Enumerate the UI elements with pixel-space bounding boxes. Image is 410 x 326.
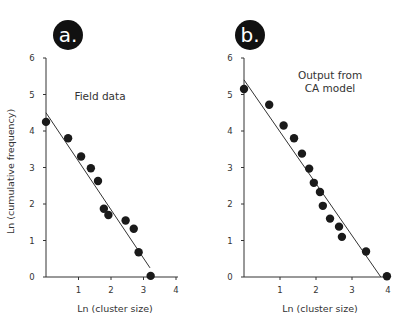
y-tick-label: 6: [29, 53, 34, 63]
panel-badge-label: b.: [240, 23, 259, 47]
y-tick-label: 3: [227, 163, 232, 173]
data-point: [319, 202, 327, 210]
data-point: [338, 233, 346, 241]
data-point: [94, 177, 102, 185]
data-point: [104, 211, 112, 219]
data-point: [77, 152, 85, 160]
y-tick-label: 1: [29, 236, 34, 246]
data-point: [326, 214, 334, 222]
data-point: [42, 118, 50, 126]
data-point: [310, 179, 318, 187]
x-tick-label: 4: [385, 285, 390, 295]
data-point: [130, 225, 138, 233]
panel-title: Output from: [298, 69, 362, 81]
y-tick-label: 5: [227, 90, 232, 100]
y-axis-label: Ln (cumulative frequency): [5, 109, 16, 234]
regression-line: [46, 113, 150, 268]
x-tick-label: 1: [277, 285, 282, 295]
data-point: [146, 272, 154, 280]
panel-title: Field data: [74, 90, 125, 102]
data-point: [64, 134, 72, 142]
data-point: [298, 149, 306, 157]
panel-a: 01234561234Ln (cluster size)Ln (cumulati…: [5, 20, 179, 314]
panel-b: 01234561234Ln (cluster size)Output fromC…: [227, 20, 391, 314]
panel-badge-label: a.: [59, 23, 78, 47]
x-tick-label: 4: [173, 285, 178, 295]
data-point: [316, 188, 324, 196]
y-tick-label: 4: [29, 126, 34, 136]
data-point: [362, 247, 370, 255]
data-point: [121, 216, 129, 224]
data-point: [290, 134, 298, 142]
x-axis-label: Ln (cluster size): [282, 303, 358, 314]
data-point: [335, 222, 343, 230]
x-tick-label: 2: [313, 285, 318, 295]
x-tick-label: 1: [76, 285, 81, 295]
x-tick-label: 2: [108, 285, 113, 295]
y-tick-label: 0: [227, 272, 232, 282]
data-point: [305, 164, 313, 172]
data-point: [383, 272, 391, 280]
x-tick-label: 3: [141, 285, 146, 295]
data-point: [265, 101, 273, 109]
data-point: [279, 121, 287, 129]
data-point: [240, 85, 248, 93]
data-point: [87, 164, 95, 172]
chart-canvas: 01234561234Ln (cluster size)Ln (cumulati…: [0, 0, 410, 326]
x-axis-label: Ln (cluster size): [77, 303, 153, 314]
y-tick-label: 3: [29, 163, 34, 173]
data-point: [134, 248, 142, 256]
y-tick-label: 2: [29, 199, 34, 209]
y-tick-label: 5: [29, 90, 34, 100]
x-tick-label: 3: [349, 285, 354, 295]
panel-title: CA model: [305, 82, 356, 94]
y-tick-label: 4: [227, 126, 232, 136]
y-tick-label: 6: [227, 53, 232, 63]
y-tick-label: 0: [29, 272, 34, 282]
regression-line: [244, 80, 381, 277]
y-tick-label: 1: [227, 236, 232, 246]
y-tick-label: 2: [227, 199, 232, 209]
